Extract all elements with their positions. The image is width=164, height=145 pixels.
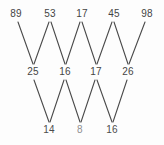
lower-edge-5: [113, 80, 127, 122]
top-node-0: 89: [5, 8, 27, 19]
bottom-node-2: 16: [101, 124, 123, 135]
top-node-1: 53: [39, 8, 61, 19]
lower-edge-4: [97, 80, 112, 122]
lower-edge-3: [81, 80, 95, 122]
upper-edge-1: [34, 22, 49, 64]
lower-edge-1: [50, 80, 64, 122]
lower-edge-group: [34, 80, 127, 122]
bottom-node-1: 8: [69, 124, 91, 135]
upper-edge-0: [18, 22, 33, 64]
top-node-2: 17: [71, 8, 93, 19]
top-node-3: 45: [103, 8, 125, 19]
top-node-4: 98: [136, 8, 158, 19]
middle-node-2: 17: [85, 66, 107, 77]
upper-edge-5: [97, 22, 112, 64]
bottom-node-0: 14: [38, 124, 60, 135]
lower-edge-2: [66, 80, 80, 122]
upper-edge-6: [114, 22, 128, 64]
upper-edge-2: [51, 22, 65, 64]
middle-node-3: 26: [117, 66, 139, 77]
upper-edge-group: [18, 22, 145, 64]
upper-edge-4: [82, 22, 96, 64]
middle-node-1: 16: [54, 66, 76, 77]
middle-node-0: 25: [22, 66, 44, 77]
upper-edge-7: [129, 22, 145, 64]
upper-edge-3: [66, 22, 80, 64]
lower-edge-0: [34, 80, 49, 122]
zigzag-diagram: 89 53 17 45 98 25 16 17 26 14 8 16: [0, 0, 164, 145]
